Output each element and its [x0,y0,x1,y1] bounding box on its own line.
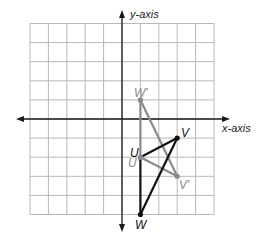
x-axis-left-arrow-icon [16,116,24,122]
label-w-prime: W' [134,86,148,100]
coordinate-plane: x-axis y-axis W' U U' V V' W [0,0,260,243]
point-w [138,212,143,217]
label-u-prime: U' [128,156,140,170]
y-axis-up-arrow-icon [119,10,125,18]
point-v [175,136,180,141]
y-axis-down-arrow-icon [119,224,125,232]
label-w: W [135,218,148,232]
y-axis-label: y-axis [129,8,159,20]
label-v-prime: V' [179,178,190,192]
label-v: V [181,126,190,140]
x-axis-label: x-axis [221,122,251,134]
